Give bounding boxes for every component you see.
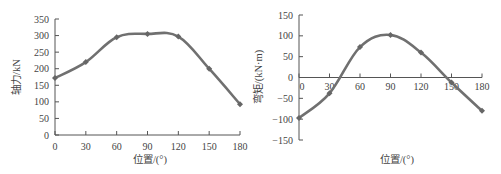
y-axis-label: 弯矩/(kN·m) bbox=[252, 49, 265, 104]
x-tick-label: 0 bbox=[53, 141, 58, 152]
y-tick-label: 50 bbox=[283, 51, 293, 62]
y-tick-label: 100 bbox=[278, 30, 293, 41]
x-tick-label: 120 bbox=[171, 141, 186, 152]
y-tick-label: −150 bbox=[272, 135, 293, 146]
y-tick-label: 150 bbox=[278, 10, 293, 21]
x-tick-label: 30 bbox=[81, 141, 91, 152]
x-tick-label: 120 bbox=[414, 81, 429, 92]
x-tick-label: 60 bbox=[112, 141, 122, 152]
y-tick-label: 200 bbox=[34, 63, 49, 74]
y-tick-label: 300 bbox=[34, 30, 49, 41]
x-tick-label: 0 bbox=[300, 81, 305, 92]
axial-force-chart: 0501001502002503003500306090120150180位置/… bbox=[10, 14, 248, 167]
x-tick-label: 180 bbox=[233, 141, 248, 152]
data-point-marker bbox=[145, 31, 151, 37]
charts-canvas: 0501001502002503003500306090120150180位置/… bbox=[0, 0, 501, 174]
x-axis-label: 位置/(°) bbox=[380, 153, 415, 166]
y-tick-label: 100 bbox=[34, 96, 49, 107]
x-axis-label: 位置/(°) bbox=[133, 153, 168, 166]
x-tick-label: 90 bbox=[143, 141, 153, 152]
y-tick-label: −100 bbox=[272, 114, 293, 125]
x-tick-label: 90 bbox=[386, 81, 396, 92]
x-tick-label: 180 bbox=[475, 81, 490, 92]
data-point-marker bbox=[388, 32, 394, 38]
series-line bbox=[55, 33, 240, 104]
y-tick-label: 0 bbox=[44, 130, 49, 141]
y-tick-label: 150 bbox=[34, 80, 49, 91]
y-tick-label: 350 bbox=[34, 14, 49, 25]
y-tick-label: 50 bbox=[39, 113, 49, 124]
y-tick-label: 0 bbox=[288, 72, 293, 83]
y-axis-label: 轴力/kN bbox=[10, 59, 22, 95]
y-tick-label: 250 bbox=[34, 47, 49, 58]
x-tick-label: 60 bbox=[355, 81, 365, 92]
bending-moment-chart: −150−100−500501001500306090120150180位置/(… bbox=[252, 10, 490, 167]
x-tick-label: 150 bbox=[202, 141, 217, 152]
y-tick-label: −50 bbox=[277, 93, 293, 104]
